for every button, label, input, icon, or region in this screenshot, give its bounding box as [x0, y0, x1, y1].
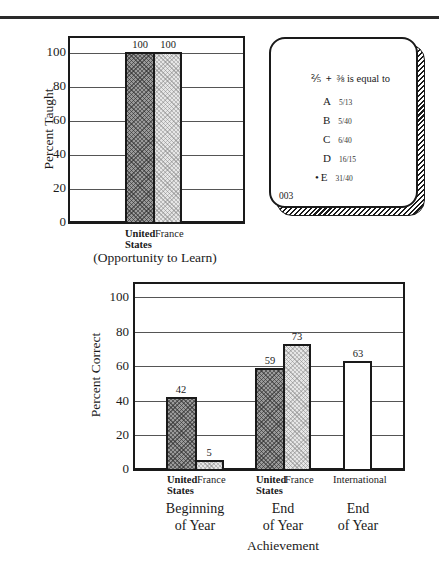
bottom-tick-100: 100 — [99, 290, 129, 304]
top-chart-caption: (Opportunity to Learn) — [85, 250, 225, 266]
category-united-states-end: United States — [256, 474, 286, 496]
option-b: B5/40 — [323, 114, 352, 126]
bottom-tick-20: 20 — [99, 428, 129, 442]
option-c: C6/40 — [323, 133, 352, 145]
question-text: ⅖ + ⅜ is equal to — [311, 72, 390, 84]
value-label-5: 5 — [189, 447, 229, 458]
bar-end-united-states — [255, 368, 285, 469]
bottom-tick-60: 60 — [99, 359, 129, 373]
top-tick-60: 60 — [36, 113, 66, 127]
bar-end-international — [343, 361, 372, 469]
top-rule — [0, 16, 439, 19]
value-label-73: 73 — [277, 331, 317, 342]
gridline-80 — [135, 332, 403, 333]
category-france-beginning: France — [197, 474, 226, 485]
group-label-beginning-of-year: Beginning of Year — [150, 500, 240, 534]
gridline-100 — [135, 297, 403, 298]
top-tick-0: 0 — [36, 215, 66, 229]
option-a: A5/13 — [323, 95, 352, 107]
value-label-42: 42 — [161, 384, 201, 395]
option-e-correct: •E31/40 — [315, 171, 353, 183]
bar-beginning-united-states — [166, 397, 197, 469]
test-item-card: ⅖ + ⅜ is equal to A5/13 B5/40 C6/40 D16/… — [269, 37, 418, 208]
bar-beginning-france — [195, 460, 224, 469]
category-international: International — [333, 474, 387, 485]
bar-opportunity-france — [153, 52, 182, 222]
top-tick-40: 40 — [36, 147, 66, 161]
bottom-tick-0: 0 — [99, 462, 129, 476]
bottom-tick-40: 40 — [99, 394, 129, 408]
correct-answer-marker: • — [315, 171, 319, 183]
category-france-end: France — [285, 474, 314, 485]
group-label-end-of-year-international: End of Year — [313, 500, 403, 534]
category-france-top: France — [155, 228, 184, 239]
bottom-chart-caption: Achievement — [223, 538, 343, 554]
value-label-63: 63 — [338, 348, 378, 359]
item-id: 003 — [279, 191, 293, 201]
category-united-states-top: United States — [125, 228, 155, 250]
value-label-59: 59 — [250, 355, 290, 366]
category-united-states-beginning: United States — [167, 474, 197, 496]
top-tick-20: 20 — [36, 181, 66, 195]
top-tick-80: 80 — [36, 79, 66, 93]
value-label-france-opportunity: 100 — [148, 39, 188, 50]
option-d: D16/15 — [323, 152, 356, 164]
bar-opportunity-united-states — [125, 52, 155, 222]
bottom-tick-80: 80 — [99, 325, 129, 339]
top-tick-100: 100 — [36, 45, 66, 59]
